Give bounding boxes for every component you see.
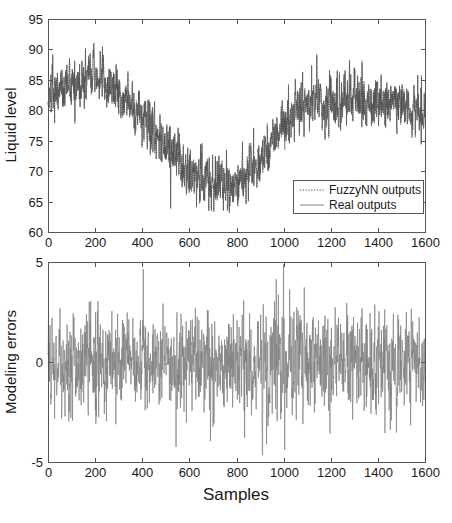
x-tick-label: 800 — [227, 235, 249, 250]
y-tick-label: 65 — [29, 195, 43, 210]
x-tick-label: 1000 — [270, 235, 299, 250]
y-tick-label: 80 — [29, 103, 43, 118]
y-tick-label: 85 — [29, 73, 43, 88]
legend-label-fuzzynn: FuzzyNN outputs — [329, 183, 421, 197]
x-tick-label: 1600 — [411, 465, 440, 480]
legend-label-real: Real outputs — [329, 198, 396, 212]
x-tick-label: 600 — [179, 235, 201, 250]
x-tick-label: 1400 — [364, 235, 393, 250]
series-modeling-errors — [48, 264, 425, 455]
liquid-level-x-ticks: 02004006008001000120014001600 — [45, 20, 440, 251]
y-tick-label: 5 — [36, 255, 43, 270]
x-tick-label: 400 — [132, 235, 154, 250]
y-axis-label-modeling-errors: Modeling errors — [2, 310, 19, 414]
figure-canvas: 02004006008001000120014001600 6065707580… — [0, 0, 452, 523]
x-tick-label: 1600 — [411, 235, 440, 250]
legend: FuzzyNN outputs Real outputs — [294, 181, 424, 214]
x-tick-label: 1000 — [270, 465, 299, 480]
x-tick-label: 1200 — [317, 465, 346, 480]
y-tick-label: 60 — [29, 225, 43, 240]
x-tick-label: 800 — [227, 465, 249, 480]
y-tick-label: 75 — [29, 134, 43, 149]
x-axis-label-samples: Samples — [203, 485, 269, 504]
y-tick-label: 70 — [29, 164, 43, 179]
liquid-level-plot: 02004006008001000120014001600 6065707580… — [2, 12, 440, 250]
x-tick-label: 200 — [85, 235, 107, 250]
x-tick-label: 200 — [85, 465, 107, 480]
y-tick-label: -5 — [31, 455, 43, 470]
y-tick-label: 90 — [29, 42, 43, 57]
x-tick-label: 0 — [45, 465, 52, 480]
y-axis-label-liquid-level: Liquid level — [2, 87, 19, 162]
x-tick-label: 0 — [45, 235, 52, 250]
y-tick-label: 95 — [29, 12, 43, 27]
x-tick-label: 400 — [132, 465, 154, 480]
modeling-errors-data — [48, 264, 425, 455]
y-tick-label: 0 — [36, 355, 43, 370]
modeling-errors-plot: 02004006008001000120014001600 -505 Model… — [2, 255, 440, 504]
x-tick-label: 1400 — [364, 465, 393, 480]
x-tick-label: 1200 — [317, 235, 346, 250]
x-tick-label: 600 — [179, 465, 201, 480]
